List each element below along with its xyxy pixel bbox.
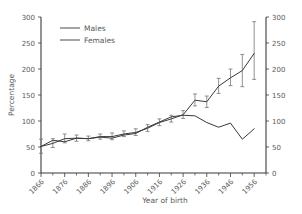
legend-label-females: Females <box>84 36 115 45</box>
x-axis-title: Year of birth <box>141 196 188 205</box>
y-tick-label-left: 0 <box>31 170 35 178</box>
y-tick-label-right: 0 <box>272 170 276 178</box>
y-axis-title: Percentage <box>7 74 16 117</box>
legend-label-males: Males <box>84 24 106 33</box>
y-tick-label-right: 250 <box>272 40 285 48</box>
y-tick-label-left: 50 <box>26 144 35 152</box>
line-chart-figure: 050100150200250300 050100150200250300 18… <box>0 0 302 214</box>
y-tick-label-right: 300 <box>272 14 285 22</box>
y-tick-label-left: 150 <box>22 92 35 100</box>
y-tick-label-right: 100 <box>272 118 285 126</box>
y-tick-label-left: 200 <box>22 66 35 74</box>
y-tick-label-left: 300 <box>22 14 35 22</box>
y-tick-label-left: 250 <box>22 40 35 48</box>
chart-container: 050100150200250300 050100150200250300 18… <box>0 0 302 214</box>
y-tick-label-left: 100 <box>22 118 35 126</box>
y-tick-label-right: 200 <box>272 66 285 74</box>
y-tick-label-right: 150 <box>272 92 285 100</box>
y-tick-label-right: 50 <box>272 144 281 152</box>
